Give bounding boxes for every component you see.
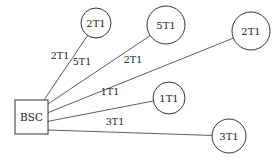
edge-line (44, 35, 88, 100)
edge-line (48, 101, 153, 121)
bsc-label: BSC (20, 111, 43, 123)
network-diagram: 2T15T12T11T13T1 BSC 2T15T12T11T13T1 (0, 0, 278, 168)
node-label: 2T1 (86, 18, 105, 29)
edge-line (48, 130, 212, 135)
edge-label: 5T1 (73, 56, 91, 67)
edge-line (48, 38, 233, 113)
nodes: 2T15T12T11T13T1 (81, 6, 270, 153)
node: 2T1 (232, 12, 270, 50)
node: 1T1 (153, 82, 185, 114)
bsc-hub: BSC (15, 100, 48, 134)
node: 2T1 (81, 8, 111, 38)
edge-label: 2T1 (124, 54, 142, 65)
node-label: 1T1 (159, 93, 178, 104)
edge-label: 3T1 (106, 116, 124, 127)
node-label: 5T1 (156, 20, 175, 31)
node: 5T1 (147, 6, 185, 44)
edge-line (48, 36, 150, 104)
edges: 2T15T12T11T13T1 (44, 35, 233, 135)
node-label: 3T1 (219, 131, 238, 142)
edge-label: 1T1 (101, 86, 119, 97)
edge-label: 2T1 (51, 50, 69, 61)
node-label: 2T1 (241, 26, 260, 37)
diagram-canvas: 2T15T12T11T13T1 BSC 2T15T12T11T13T1 (0, 0, 278, 168)
node: 3T1 (212, 119, 246, 153)
